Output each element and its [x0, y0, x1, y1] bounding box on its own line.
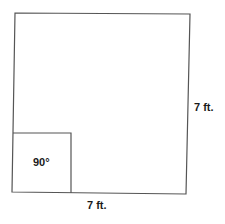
angle-label: 90°: [33, 157, 50, 168]
right-side-length-label: 7 ft.: [194, 102, 214, 113]
square-diagram: [0, 0, 225, 224]
bottom-side-length-label: 7 ft.: [87, 200, 107, 211]
